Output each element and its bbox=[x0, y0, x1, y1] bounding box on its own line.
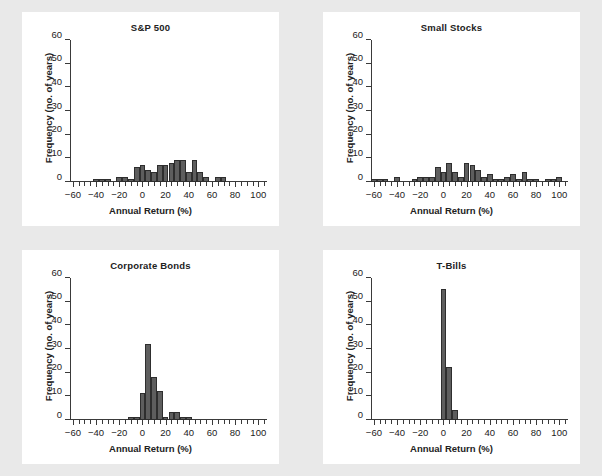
y-tick bbox=[366, 63, 371, 64]
x-tick-minor bbox=[229, 182, 230, 186]
x-tick-minor bbox=[137, 182, 138, 186]
x-tick-label: 40 bbox=[183, 189, 194, 200]
x-tick-major bbox=[559, 420, 560, 425]
y-tick bbox=[65, 39, 70, 40]
y-tick-label: 50 bbox=[352, 290, 363, 301]
y-axis-label-wrap: Frequency (no. of years) bbox=[333, 36, 347, 180]
y-tick bbox=[65, 324, 70, 325]
x-tick-major bbox=[212, 420, 213, 425]
x-tick-major bbox=[536, 420, 537, 425]
x-tick-label: 60 bbox=[207, 189, 218, 200]
y-tick-label: 60 bbox=[352, 28, 363, 39]
x-tick-minor bbox=[183, 182, 184, 186]
y-tick-label: 0 bbox=[57, 408, 62, 419]
x-tick-minor bbox=[525, 182, 526, 186]
x-tick-minor bbox=[137, 420, 138, 424]
y-tick-label: 10 bbox=[51, 385, 62, 396]
x-tick-minor bbox=[229, 420, 230, 424]
x-tick-major bbox=[420, 420, 421, 425]
y-axis-line bbox=[371, 40, 372, 182]
panel-card: Small StocksFrequency (no. of years)Annu… bbox=[323, 12, 580, 226]
x-tick-minor bbox=[409, 182, 410, 186]
x-axis-label: Annual Return (%) bbox=[22, 205, 279, 216]
x-tick-major bbox=[212, 182, 213, 187]
x-tick-major bbox=[189, 420, 190, 425]
x-tick-major bbox=[443, 182, 444, 187]
x-tick-minor bbox=[519, 182, 520, 186]
x-tick-label: 60 bbox=[508, 189, 519, 200]
x-tick-minor bbox=[200, 182, 201, 186]
y-axis-label-wrap: Frequency (no. of years) bbox=[32, 36, 46, 180]
x-tick-minor bbox=[542, 420, 543, 424]
x-tick-label: 40 bbox=[484, 189, 495, 200]
x-tick-major bbox=[536, 182, 537, 187]
y-tick-label: 10 bbox=[352, 385, 363, 396]
x-tick-minor bbox=[247, 182, 248, 186]
y-tick-label: 0 bbox=[358, 408, 363, 419]
x-tick-label: −40 bbox=[389, 427, 405, 438]
x-tick-major bbox=[258, 182, 259, 187]
x-tick-major bbox=[119, 420, 120, 425]
x-tick-minor bbox=[455, 182, 456, 186]
x-tick-label: 20 bbox=[461, 427, 472, 438]
x-axis-line bbox=[371, 419, 568, 420]
y-tick bbox=[65, 110, 70, 111]
x-tick-minor bbox=[461, 420, 462, 424]
y-tick bbox=[366, 39, 371, 40]
x-tick-label: 100 bbox=[250, 427, 266, 438]
y-tick bbox=[65, 419, 70, 420]
x-tick-minor bbox=[102, 182, 103, 186]
x-tick-minor bbox=[247, 420, 248, 424]
x-tick-label: 80 bbox=[531, 189, 542, 200]
x-tick-minor bbox=[530, 420, 531, 424]
x-tick-minor bbox=[125, 420, 126, 424]
x-tick-minor bbox=[525, 420, 526, 424]
panel-card: T-BillsFrequency (no. of years)Annual Re… bbox=[323, 250, 580, 464]
y-tick-label: 0 bbox=[358, 170, 363, 181]
x-tick-label: 60 bbox=[508, 427, 519, 438]
x-tick-minor bbox=[113, 420, 114, 424]
y-tick-label: 20 bbox=[51, 361, 62, 372]
x-tick-major bbox=[166, 420, 167, 425]
x-tick-minor bbox=[171, 420, 172, 424]
x-tick-minor bbox=[449, 182, 450, 186]
x-tick-minor bbox=[432, 182, 433, 186]
y-tick bbox=[65, 277, 70, 278]
plot-area: 0102030405060−60−40−20020406080100 bbox=[70, 278, 267, 420]
y-tick-label: 20 bbox=[352, 123, 363, 134]
x-tick-minor bbox=[380, 182, 381, 186]
x-tick-minor bbox=[385, 182, 386, 186]
x-tick-minor bbox=[391, 182, 392, 186]
x-tick-minor bbox=[253, 182, 254, 186]
x-tick-minor bbox=[426, 182, 427, 186]
x-axis-label: Annual Return (%) bbox=[323, 443, 580, 454]
x-tick-major bbox=[96, 182, 97, 187]
y-tick bbox=[366, 86, 371, 87]
x-tick-minor bbox=[478, 182, 479, 186]
x-tick-label: 100 bbox=[551, 427, 567, 438]
x-tick-minor bbox=[241, 420, 242, 424]
x-tick-minor bbox=[195, 420, 196, 424]
y-tick bbox=[366, 372, 371, 373]
x-tick-minor bbox=[496, 420, 497, 424]
x-tick-major bbox=[73, 182, 74, 187]
y-axis-line bbox=[70, 278, 71, 420]
x-tick-major bbox=[559, 182, 560, 187]
histogram-bar bbox=[383, 179, 389, 182]
y-tick bbox=[366, 110, 371, 111]
y-tick bbox=[366, 395, 371, 396]
x-tick-minor bbox=[195, 182, 196, 186]
y-tick bbox=[65, 157, 70, 158]
y-tick-label: 20 bbox=[352, 361, 363, 372]
x-tick-minor bbox=[432, 420, 433, 424]
x-tick-minor bbox=[154, 420, 155, 424]
y-tick-label: 20 bbox=[51, 123, 62, 134]
x-tick-minor bbox=[148, 182, 149, 186]
x-tick-label: −40 bbox=[88, 427, 104, 438]
x-tick-minor bbox=[90, 182, 91, 186]
x-tick-label: 100 bbox=[551, 189, 567, 200]
x-tick-label: 60 bbox=[207, 427, 218, 438]
x-tick-minor bbox=[264, 182, 265, 186]
x-tick-minor bbox=[224, 420, 225, 424]
x-tick-minor bbox=[403, 182, 404, 186]
